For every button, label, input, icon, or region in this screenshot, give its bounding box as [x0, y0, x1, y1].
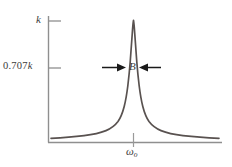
- resonance-bandwidth-figure: k 0.707k ωo B: [0, 0, 232, 167]
- y-axis-half-power-label: 0.707k: [3, 61, 33, 72]
- omega-symbol: ω: [126, 145, 134, 157]
- half-power-k: k: [28, 60, 33, 71]
- bandwidth-label: B: [129, 61, 136, 72]
- half-power-numeric: 0.707: [3, 60, 28, 71]
- y-axis-peak-label: k: [36, 14, 41, 25]
- x-axis-resonance-label: ωo: [126, 146, 138, 157]
- omega-subscript: o: [134, 150, 138, 159]
- bandwidth-arrow-left-head: [117, 63, 126, 71]
- plot-area: [0, 0, 232, 167]
- resonance-curve: [51, 20, 219, 138]
- bandwidth-arrow-right-head: [139, 63, 148, 71]
